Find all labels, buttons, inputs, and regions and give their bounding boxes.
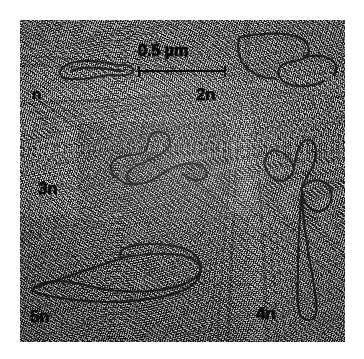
micrograph-figure: 0.5 µm n2n3n5n4n (0, 0, 364, 359)
ploidy-label-5n: 5n (30, 308, 49, 325)
ploidy-label-2n: 2n (196, 86, 215, 103)
ploidy-label-4n: 4n (256, 305, 275, 322)
scale-bar: 0.5 µm (132, 42, 240, 94)
molecule-2n (232, 25, 344, 103)
scale-bar-cap-left (138, 66, 140, 77)
scale-bar-label: 0.5 µm (138, 42, 188, 60)
molecule-n (50, 52, 140, 86)
scale-bar-line (138, 70, 226, 72)
scale-bar-cap-right (224, 66, 226, 77)
molecule-5n (26, 236, 234, 316)
ploidy-label-3n: 3n (38, 180, 57, 197)
molecule-4n (258, 128, 344, 328)
ploidy-label-n: n (32, 86, 41, 101)
scale-bar-rule (138, 66, 226, 77)
molecule-3n (96, 126, 222, 192)
